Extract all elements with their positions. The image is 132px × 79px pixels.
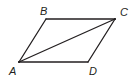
- vertex-labels: A B C D: [8, 5, 128, 77]
- vertex-label-b: B: [40, 5, 47, 17]
- vertex-c-point: [114, 18, 116, 20]
- edges: [19, 19, 115, 62]
- vertex-a-point: [18, 61, 20, 63]
- vertex-label-d: D: [89, 65, 97, 77]
- vertex-label-a: A: [8, 65, 16, 77]
- parallelogram-diagram: A B C D: [0, 0, 132, 79]
- vertex-label-c: C: [120, 6, 128, 18]
- diagonal-ac: [19, 19, 115, 62]
